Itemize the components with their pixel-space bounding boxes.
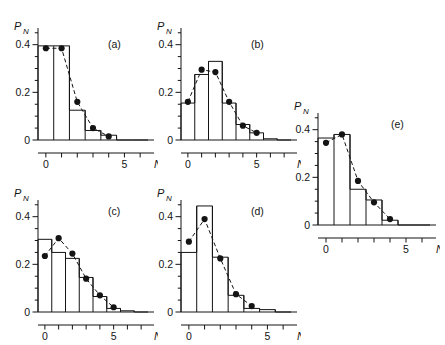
y-tick-label: 0.4: [15, 38, 30, 50]
data-point: [69, 251, 75, 257]
labels-e: P N (e): [294, 100, 404, 130]
y-tick-label: 0.4: [15, 210, 30, 222]
y-tick-label: 0.4: [158, 38, 173, 50]
x-tick-label: 5: [403, 243, 409, 253]
x-axis-label-e: N: [436, 243, 440, 253]
x-tick-label: 0: [186, 330, 192, 340]
data-point: [83, 276, 89, 282]
points-e: [323, 131, 393, 222]
panel-label-a: (a): [108, 38, 121, 50]
chart-panel-d: 00.20.4 05N P N (d): [151, 175, 301, 340]
bars-c: [38, 239, 154, 312]
labels-d: P N (d): [157, 187, 264, 217]
y-axis-label-sub-b: N: [166, 27, 172, 36]
bars-a: [38, 46, 154, 140]
points-d: [186, 216, 255, 309]
plot-b: 00.20.4 05N P N (b): [151, 8, 301, 168]
data-point: [355, 178, 361, 184]
data-point: [90, 125, 96, 131]
data-point: [371, 199, 377, 205]
y-tick-label: 0.2: [15, 86, 30, 98]
panel-label-e: (e): [391, 118, 404, 130]
x-axis-c: 05N: [38, 325, 158, 340]
plot-a: 00.20.4 05N P N (a): [8, 8, 158, 168]
y-tick-label: 0.4: [295, 123, 310, 135]
x-tick-label: 0: [42, 330, 48, 340]
x-tick-label: 5: [111, 330, 117, 340]
bars-b: [181, 61, 297, 140]
y-axis-b: 00.20.4: [158, 28, 181, 146]
x-tick-label: 0: [185, 158, 191, 168]
data-point: [185, 99, 191, 105]
x-tick-label: 5: [122, 158, 128, 168]
y-axis-label-c: P: [14, 187, 22, 199]
y-tick-label: 0: [24, 134, 30, 146]
x-tick-label: 0: [43, 158, 49, 168]
data-point: [254, 130, 260, 136]
x-axis-a: 05N: [38, 153, 158, 168]
x-tick-label: 5: [265, 330, 271, 340]
data-point: [201, 216, 207, 222]
model-curve: [189, 219, 252, 306]
y-tick-label: 0.2: [158, 258, 173, 270]
y-tick-label: 0: [167, 134, 173, 146]
data-point: [111, 304, 117, 310]
y-axis-label-sub-d: N: [166, 194, 172, 203]
data-point: [339, 131, 345, 137]
y-axis-label-b: P: [157, 20, 165, 32]
x-axis-b: 05N: [181, 153, 301, 168]
chart-panel-e: 00.20.4 05N P N (e): [288, 88, 440, 253]
data-point: [212, 69, 218, 75]
data-point: [233, 291, 239, 297]
data-point: [56, 235, 62, 241]
y-tick-label: 0: [24, 306, 30, 318]
y-tick-label: 0.4: [158, 210, 173, 222]
x-tick-label: 0: [323, 243, 329, 253]
y-axis-e: 00.20.4: [295, 113, 318, 231]
plot-d: 00.20.4 05N P N (d): [151, 175, 301, 340]
histogram-outline: [318, 134, 430, 225]
chart-panel-b: 00.20.4 05N P N (b): [151, 8, 301, 168]
data-point: [240, 123, 246, 129]
data-point: [58, 45, 64, 51]
plot-c: 00.20.4 05N P N (c): [8, 175, 158, 340]
x-axis-label-d: N: [297, 330, 301, 340]
data-point: [226, 99, 232, 105]
data-point: [249, 303, 255, 309]
data-point: [74, 99, 80, 105]
panel-label-c: (c): [108, 205, 120, 217]
model-curve: [46, 48, 109, 136]
data-point: [106, 133, 112, 139]
y-axis-label-e: P: [294, 100, 302, 112]
y-axis-label-d: P: [157, 187, 165, 199]
data-point: [199, 67, 205, 73]
y-tick-label: 0: [167, 306, 173, 318]
y-axis-label-sub-e: N: [303, 107, 309, 116]
y-axis-label-sub-c: N: [23, 194, 29, 203]
data-point: [387, 216, 393, 222]
data-point: [43, 45, 49, 51]
y-axis-label-a: P: [14, 20, 22, 32]
panel-label-d: (d): [251, 205, 264, 217]
data-point: [186, 239, 192, 245]
y-axis-a: 00.20.4: [15, 28, 38, 146]
points-a: [43, 45, 112, 139]
data-point: [97, 292, 103, 298]
chart-panel-c: 00.20.4 05N P N (c): [8, 175, 158, 340]
bars-e: [318, 134, 436, 225]
chart-panel-a: 00.20.4 05N P N (a): [8, 8, 158, 168]
y-tick-label: 0.2: [15, 258, 30, 270]
y-tick-label: 0.2: [158, 86, 173, 98]
y-axis-d: 00.20.4: [158, 200, 181, 318]
data-point: [217, 255, 223, 261]
x-axis-d: 05N: [181, 325, 301, 340]
y-axis-label-sub-a: N: [23, 27, 29, 36]
x-tick-label: 5: [254, 158, 260, 168]
labels-b: P N (b): [157, 20, 264, 50]
data-point: [323, 140, 329, 146]
y-tick-label: 0.2: [295, 171, 310, 183]
x-axis-e: 05N: [318, 238, 440, 253]
plot-e: 00.20.4 05N P N (e): [288, 88, 440, 253]
data-point: [42, 253, 48, 259]
model-curve: [326, 134, 390, 219]
